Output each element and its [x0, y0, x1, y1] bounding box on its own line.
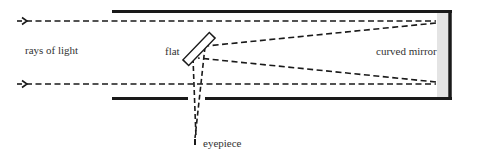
incoming-rays [26, 21, 436, 84]
telescope-diagram: rays of light flat curved mirror eyepiec… [0, 0, 479, 156]
curved-mirror [437, 13, 448, 97]
eyepiece-rays [193, 47, 205, 138]
label-curved-mirror: curved mirror [376, 45, 437, 57]
flat-mirror [183, 33, 215, 66]
diagram-graphics [0, 0, 479, 156]
label-rays-of-light: rays of light [25, 44, 78, 56]
label-flat: flat [165, 45, 180, 57]
label-eyepiece: eyepiece [203, 137, 241, 149]
